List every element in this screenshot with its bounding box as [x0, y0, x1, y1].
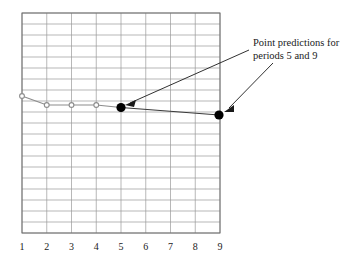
observed-point-marker	[44, 103, 49, 108]
x-axis-label-1: 1	[20, 241, 25, 252]
point-prediction-chart: Point predictions for periods 5 and 9 12…	[0, 0, 357, 268]
x-axis-label-6: 6	[143, 241, 148, 252]
observed-point-marker	[94, 103, 99, 108]
x-axis-label-8: 8	[193, 241, 198, 252]
observed-point-marker	[20, 94, 25, 99]
point-prediction-marker-period9	[214, 110, 223, 119]
chart-figure: Point predictions for periods 5 and 9 12…	[0, 0, 357, 268]
x-axis-label-9: 9	[218, 241, 223, 252]
x-axis-label-4: 4	[94, 241, 99, 252]
callout-text-line-1: Point predictions for	[253, 37, 340, 48]
x-axis-label-2: 2	[44, 241, 49, 252]
x-axis-label-7: 7	[168, 241, 173, 252]
callout-text-line-2: periods 5 and 9	[253, 50, 317, 61]
x-axis-label-3: 3	[69, 241, 74, 252]
observed-point-marker	[69, 103, 74, 108]
chart-gridlines	[22, 13, 220, 233]
x-axis-label-5: 5	[119, 241, 124, 252]
point-prediction-marker-period5	[116, 103, 125, 112]
